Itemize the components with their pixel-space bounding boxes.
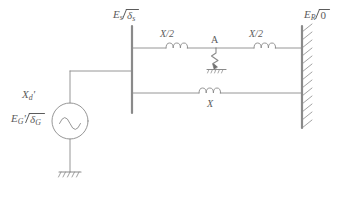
angle-bracket-icon: 0 xyxy=(314,9,329,19)
label-xd-symbol: X xyxy=(22,88,29,100)
label-receiving-bus-voltage: ER0 xyxy=(304,9,327,22)
circuit-diagram-canvas: Esδs ER0 X/2 X/2 A X Xd' EG'δG xyxy=(0,0,352,198)
label-es-symbol: E xyxy=(113,8,120,20)
generator-ground-hatching xyxy=(59,172,80,177)
label-generator-reactance: Xd' xyxy=(22,89,35,102)
label-inductor-upper-left: X/2 xyxy=(160,29,174,39)
label-generator-emf: EG'δG xyxy=(11,113,43,126)
label-sending-bus-voltage: Esδs xyxy=(113,9,137,22)
angle-bracket-icon: δG xyxy=(25,113,45,123)
diagram-svg xyxy=(0,0,352,198)
label-eg-symbol: E xyxy=(11,112,18,124)
generator-source xyxy=(52,103,88,139)
ac-sine-icon xyxy=(60,118,81,130)
inductor-upper-right xyxy=(254,43,276,48)
label-er-angle: 0 xyxy=(320,9,326,21)
label-inductor-upper-right: X/2 xyxy=(249,29,263,39)
label-eg-angle-subscript: G xyxy=(35,119,41,128)
label-inductor-lower: X xyxy=(207,99,213,109)
inductor-upper-left xyxy=(166,43,188,48)
label-fault-point: A xyxy=(211,35,218,45)
label-er-symbol: E xyxy=(304,8,311,20)
label-es-angle-subscript: s xyxy=(132,15,135,24)
angle-bracket-icon: δs xyxy=(122,9,139,19)
label-xd-prime: ' xyxy=(33,88,35,100)
inductor-lower xyxy=(199,88,221,93)
infinite-bus-hatching xyxy=(302,24,312,128)
